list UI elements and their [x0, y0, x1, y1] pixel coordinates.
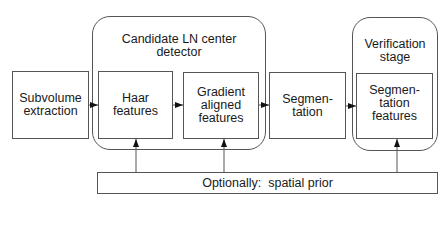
segmentation-node: Segmen- tation: [269, 72, 346, 139]
spatial-prior-node: Optionally: spatial prior: [97, 172, 438, 194]
haar-features-node: Haar features: [98, 71, 173, 139]
subvolume-extraction-node: Subvolume extraction: [12, 71, 89, 139]
candidate-detector-title: Candidate LN center detector: [93, 33, 265, 59]
segmentation-features-node: Segmen- tation features: [356, 73, 433, 139]
verification-stage-title: Verification stage: [353, 38, 437, 64]
gradient-aligned-features-node: Gradient aligned features: [183, 72, 259, 139]
